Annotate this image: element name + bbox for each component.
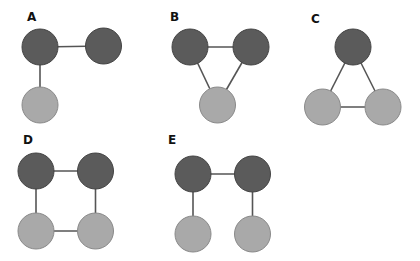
light-node bbox=[200, 87, 236, 123]
panel-label-d: D bbox=[23, 134, 33, 146]
dark-node bbox=[175, 156, 211, 192]
panel-c bbox=[305, 29, 402, 125]
panel-d bbox=[18, 153, 114, 249]
light-node bbox=[18, 213, 54, 249]
dark-node bbox=[235, 156, 271, 192]
panel-e bbox=[175, 156, 271, 252]
panel-label-c: C bbox=[311, 13, 320, 25]
light-node bbox=[305, 89, 341, 125]
light-node bbox=[78, 213, 114, 249]
dark-node bbox=[335, 29, 371, 65]
light-node bbox=[365, 89, 401, 125]
dark-node bbox=[86, 28, 122, 64]
dark-node bbox=[78, 153, 114, 189]
dark-node bbox=[22, 29, 58, 65]
dark-node bbox=[172, 29, 208, 65]
panel-a bbox=[22, 28, 122, 123]
panel-label-e: E bbox=[168, 134, 176, 146]
light-node bbox=[175, 216, 211, 252]
panel-label-a: A bbox=[27, 11, 36, 23]
light-node bbox=[22, 87, 58, 123]
panel-label-b: B bbox=[170, 11, 179, 23]
panel-b bbox=[172, 29, 269, 123]
dark-node bbox=[233, 29, 269, 65]
light-node bbox=[235, 216, 271, 252]
network-motif-diagram bbox=[0, 0, 420, 261]
dark-node bbox=[18, 153, 54, 189]
